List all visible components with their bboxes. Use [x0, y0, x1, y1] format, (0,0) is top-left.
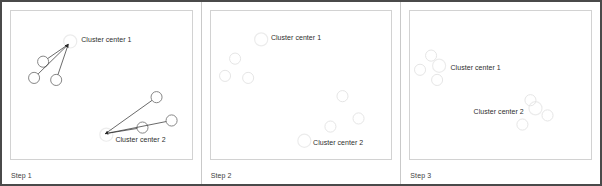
data-point: [51, 74, 62, 85]
cluster-center-label-1: Cluster center 1: [271, 34, 321, 41]
panel-step-3: Cluster center 1Cluster center 2Step 3: [400, 2, 600, 184]
cluster-center-label-2: Cluster center 2: [115, 136, 165, 143]
plot-area-step-1: Cluster center 1Cluster center 2: [10, 10, 193, 160]
data-point: [415, 64, 426, 75]
data-point: [426, 50, 437, 61]
cluster-center-label-2: Cluster center 2: [313, 139, 363, 146]
data-point: [325, 121, 336, 132]
data-point: [517, 119, 528, 130]
cluster-center-label-2: Cluster center 2: [474, 108, 524, 115]
data-point: [229, 53, 240, 64]
step-label-step-2: Step 2: [211, 172, 232, 179]
step-label-step-1: Step 1: [11, 172, 32, 179]
panel-step-2: Cluster center 1Cluster center 2Step 2: [201, 2, 401, 184]
data-point: [353, 113, 364, 124]
data-point: [242, 72, 253, 83]
data-point: [542, 110, 553, 121]
step-label-step-3: Step 3: [410, 172, 431, 179]
plot-area-step-3: Cluster center 1Cluster center 2: [409, 10, 592, 160]
cluster-center-label-1: Cluster center 1: [450, 64, 500, 71]
data-point: [166, 115, 177, 126]
plot-area-step-2: Cluster center 1Cluster center 2: [210, 10, 393, 160]
assignment-arrow: [38, 44, 68, 73]
cluster-center-label-1: Cluster center 1: [81, 36, 131, 43]
center-marker-1: [254, 33, 267, 46]
scatter-canvas-step-2: [211, 11, 392, 159]
data-point: [337, 91, 348, 102]
data-point: [29, 72, 40, 83]
data-point: [151, 92, 162, 103]
panel-step-1: Cluster center 1Cluster center 2Step 1: [2, 2, 201, 184]
panel-row: Cluster center 1Cluster center 2Step 1Cl…: [2, 2, 600, 184]
assignment-arrow: [48, 44, 68, 58]
center-marker-2: [529, 102, 542, 115]
kmeans-steps-figure: Cluster center 1Cluster center 2Step 1Cl…: [0, 0, 602, 186]
center-marker-2: [297, 134, 310, 147]
data-point: [432, 74, 443, 85]
scatter-canvas-step-3: [410, 11, 591, 159]
data-point: [137, 122, 148, 133]
data-point: [219, 70, 230, 81]
center-marker-1: [433, 59, 446, 72]
